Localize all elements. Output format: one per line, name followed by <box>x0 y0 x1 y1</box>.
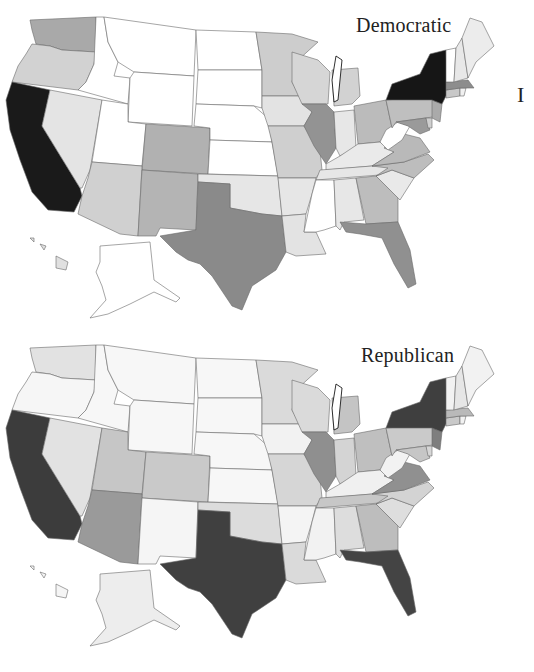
state-ak <box>90 242 180 318</box>
state-nm <box>138 498 198 564</box>
state-ny <box>386 378 448 432</box>
democratic-map: Democratic <box>0 0 534 330</box>
state-nm <box>138 170 198 236</box>
state-me <box>462 18 494 78</box>
state-wy <box>128 72 194 126</box>
state-fl <box>340 550 416 616</box>
republican-map: Republican <box>0 318 534 672</box>
state-hi <box>30 238 68 270</box>
state-mt <box>104 345 196 404</box>
state-mt <box>104 17 196 76</box>
state-me <box>462 346 494 406</box>
state-hi <box>30 566 68 598</box>
state-nd <box>196 358 262 398</box>
state-wy <box>128 400 194 454</box>
side-mark: I <box>517 82 524 108</box>
state-ri <box>460 416 466 424</box>
democratic-map-svg <box>0 0 534 330</box>
republican-map-title: Republican <box>361 344 454 367</box>
state-ks <box>208 140 278 176</box>
state-sd <box>196 70 262 108</box>
state-ak <box>90 570 180 646</box>
state-fl <box>340 222 416 288</box>
state-nd <box>196 30 262 70</box>
state-sd <box>196 398 262 436</box>
republican-map-svg <box>0 318 534 672</box>
state-ks <box>208 468 278 504</box>
state-ri <box>460 88 466 96</box>
state-ny <box>386 50 448 104</box>
state-co <box>142 452 210 502</box>
state-co <box>142 124 210 174</box>
democratic-map-title: Democratic <box>356 14 451 37</box>
